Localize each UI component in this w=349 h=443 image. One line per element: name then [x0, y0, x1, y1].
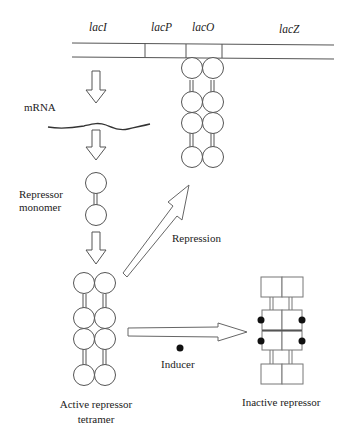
gene-label-laco: lacO: [192, 21, 214, 33]
lac-operon-diagram: [0, 0, 349, 443]
gene-label-lacz: lacZ: [279, 23, 299, 35]
inducer-dot: [177, 345, 184, 352]
arrow-repression: [123, 185, 189, 277]
inactive-repressor-label: Inactive repressor: [242, 396, 321, 408]
active-tetramer-label-line1: Active repressor: [48, 398, 144, 410]
mrna-label: mRNA: [24, 101, 56, 113]
inactive-repressor: [261, 277, 303, 384]
arrow-assembly: [86, 232, 106, 264]
operator-bound-tetramer: [182, 58, 224, 168]
dna-strand: [72, 43, 334, 59]
inducer-label: Inducer: [161, 358, 195, 370]
arrow-induction: [128, 323, 247, 341]
gene-label-lacp: lacP: [151, 21, 172, 33]
monomer-label-line2: monomer: [19, 201, 61, 213]
arrow-transcription: [86, 71, 106, 103]
repressor-monomer: [86, 173, 107, 226]
repression-label: Repression: [172, 232, 221, 244]
active-tetramer-label-line2: tetramer: [48, 413, 144, 425]
active-repressor-tetramer: [74, 273, 116, 386]
monomer-label-line1: Repressor: [19, 188, 63, 200]
gene-label-laci: lacI: [89, 21, 107, 33]
arrow-translation: [86, 130, 106, 160]
mrna-wave: [48, 123, 150, 129]
